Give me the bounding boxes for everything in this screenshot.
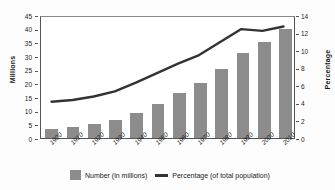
y-left-tick-30: 30: [25, 54, 32, 61]
legend-swatch-bar-icon: [70, 170, 81, 180]
y-axis-right: 02468101214: [296, 16, 314, 139]
y-right-tick-6: 6: [301, 83, 305, 90]
y-right-tickmark-10: [296, 51, 299, 52]
y-left-tick-40: 40: [25, 26, 32, 33]
y-left-tick-10: 10: [25, 108, 32, 115]
y-left-tick-35: 35: [25, 40, 32, 47]
y-left-tickmark-0: [35, 139, 38, 140]
percentage-line-svg: [41, 17, 294, 138]
y-axis-left: 051015202530354045: [20, 16, 38, 139]
y-right-tickmark-12: [296, 34, 299, 35]
chart-legend: Number (in millions) Percentage (of tota…: [40, 167, 300, 183]
y-left-tickmark-5: [35, 125, 38, 126]
x-axis-labels: 1900191019201930194019501960197019801990…: [40, 141, 295, 163]
y-right-tick-4: 4: [301, 100, 305, 107]
y-right-tick-0: 0: [301, 136, 305, 143]
y-right-tickmark-14: [296, 16, 299, 17]
y-right-tick-2: 2: [301, 118, 305, 125]
y-right-tickmark-6: [296, 86, 299, 87]
y-left-tickmark-45: [35, 16, 38, 17]
y-right-tickmark-0: [296, 139, 299, 140]
y-right-tick-10: 10: [301, 48, 308, 55]
chart-figure: 051015202530354045 Millions 02468101214 …: [0, 0, 335, 190]
legend-label-percentage: Percentage (of total population): [172, 172, 270, 179]
y-left-tickmark-20: [35, 84, 38, 85]
y-left-tick-5: 5: [28, 122, 32, 129]
y-axis-left-title: Millions: [9, 40, 16, 100]
y-axis-right-title: Percentage: [324, 35, 331, 105]
y-right-tickmark-4: [296, 104, 299, 105]
line-series-layer: [41, 17, 294, 138]
legend-label-number: Number (in millions): [85, 172, 147, 179]
y-left-tickmark-40: [35, 30, 38, 31]
y-left-tick-25: 25: [25, 67, 32, 74]
plot-area: [40, 16, 295, 139]
y-left-tickmark-15: [35, 98, 38, 99]
y-left-tick-20: 20: [25, 81, 32, 88]
y-left-tickmark-35: [35, 43, 38, 44]
y-left-tick-45: 45: [25, 13, 32, 20]
y-left-tick-0: 0: [28, 136, 32, 143]
percentage-polyline: [52, 27, 284, 102]
legend-item-number: Number (in millions): [70, 170, 147, 180]
legend-swatch-line-icon: [155, 174, 168, 177]
y-left-tickmark-30: [35, 57, 38, 58]
y-right-tick-8: 8: [301, 65, 305, 72]
y-right-tickmark-8: [296, 69, 299, 70]
y-right-tickmark-2: [296, 121, 299, 122]
y-left-tickmark-10: [35, 112, 38, 113]
y-right-tick-12: 12: [301, 30, 308, 37]
y-left-tick-15: 15: [25, 95, 32, 102]
legend-item-percentage: Percentage (of total population): [155, 172, 270, 179]
y-left-tickmark-25: [35, 71, 38, 72]
y-right-tick-14: 14: [301, 13, 308, 20]
